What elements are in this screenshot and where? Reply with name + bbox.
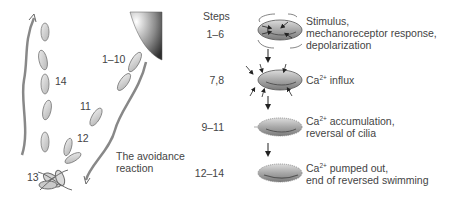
cell [62,137,73,156]
cell-series-14 [37,23,53,152]
label-11: 11 [80,100,91,112]
stage-3-line-2: reversal of cilia [306,127,395,139]
stage-1-line-2: mechanoreceptor response, [306,27,437,39]
stage-1-line-1: Stimulus, [306,15,437,27]
cell [115,72,133,93]
obstacle [130,12,162,60]
paramecium-stage-1 [258,14,302,48]
stage-4-line-2: end of reversed swimming [306,174,429,186]
step-label-4: 12–14 [194,167,224,179]
step-label-3: 9–11 [194,121,224,133]
stage-4-description: Ca2+ pumped out, end of reversed swimmin… [306,162,429,186]
stage-2-line-1: influx [327,74,354,86]
stage-1-line-3: depolarization [306,39,437,51]
stage-3-line-1: accumulation, [327,115,395,127]
label-14: 14 [55,75,67,87]
swim-path-left-ribbon [22,18,34,155]
ion-charge: 2+ [319,162,326,169]
step-label-1: 1–6 [194,28,224,40]
ion-charge: 2+ [319,115,326,122]
paramecium-stage-3 [254,118,302,136]
cell [41,23,49,41]
cell [126,50,144,73]
cell [41,99,53,120]
label-13: 13 [27,171,39,183]
stage-2-description: Ca2+ influx [306,74,354,86]
ion-symbol: Ca [306,162,319,174]
label-12: 12 [77,132,89,144]
cell-tangle-13 [38,169,72,190]
stage-4-line-1: pumped out, [327,162,388,174]
ion-symbol: Ca [306,74,319,86]
steps-header: Steps [203,10,230,22]
caption-line-2: reaction [116,162,153,174]
ion-symbol: Ca [306,115,319,127]
cell [41,74,49,94]
cell [41,132,49,152]
ion-charge: 2+ [319,74,326,81]
stage-1-description: Stimulus, mechanoreceptor response, depo… [306,15,437,51]
label-1-10: 1–10 [102,53,125,65]
cell [37,49,49,70]
stage-3-description: Ca2+ accumulation, reversal of cilia [306,115,395,139]
paramecium-stage-4 [258,164,302,182]
paramecium-stage-2 [246,64,302,97]
caption-line-1: The avoidance [116,150,185,162]
step-label-2: 7,8 [194,74,224,86]
